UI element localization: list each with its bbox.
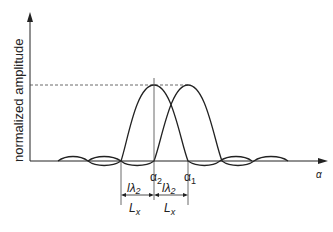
x-axis-label: α	[316, 169, 322, 180]
y-axis-label: normalized amplitude	[11, 38, 26, 162]
alpha2-label: α2	[150, 170, 162, 186]
spacing-right-numerator: lλ2	[162, 181, 176, 196]
x-axis-arrow-icon	[318, 158, 328, 164]
spacing-right-denominator: Lx	[164, 201, 176, 217]
y-axis-arrow-icon	[27, 12, 33, 22]
arrowhead-icon	[149, 193, 154, 197]
arrowhead-icon	[121, 193, 126, 197]
spacing-left-denominator: Lx	[129, 201, 141, 217]
curve-alpha1	[88, 85, 288, 166]
diffraction-diagram: α2 α1 α lλ2 Lx lλ2 Lx normalized amplitu…	[0, 0, 333, 232]
arrowhead-icon	[183, 193, 188, 197]
alpha1-label: α1	[184, 170, 196, 186]
spacing-left-numerator: lλ2	[127, 181, 141, 196]
arrowhead-icon	[154, 193, 159, 197]
curve-alpha2	[58, 85, 252, 166]
